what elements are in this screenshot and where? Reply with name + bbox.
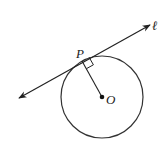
center-point <box>100 95 105 100</box>
tangent-line <box>19 25 150 98</box>
label-p: P <box>75 46 84 61</box>
radius-op <box>82 61 102 97</box>
label-line: ℓ <box>152 18 158 33</box>
tangent-diagram: P O ℓ <box>0 0 164 143</box>
label-o: O <box>106 92 116 107</box>
